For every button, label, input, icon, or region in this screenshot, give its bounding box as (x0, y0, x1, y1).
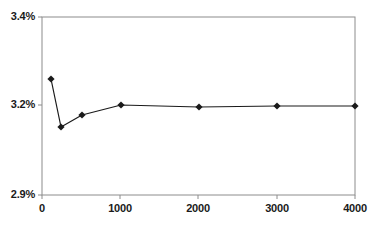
data-point (78, 111, 85, 118)
y-axis-tick-label: 3.4% (0, 10, 35, 22)
x-axis-tick-label: 1000 (80, 202, 160, 214)
series-line (51, 79, 355, 127)
data-point (195, 103, 202, 110)
chart-canvas (0, 0, 377, 226)
x-axis-tick-label: 2000 (158, 202, 238, 214)
x-axis-tick-label: 3000 (237, 202, 317, 214)
x-axis-ticks (42, 195, 355, 199)
data-series (47, 75, 358, 130)
data-point (57, 123, 64, 130)
line-chart: 3.4%3.2%2.9% 01000200030004000 (0, 0, 377, 226)
data-point (47, 75, 54, 82)
y-axis-tick-label: 3.2% (0, 98, 35, 110)
data-point (273, 102, 280, 109)
y-axis-ticks (38, 17, 42, 195)
x-axis-tick-label: 4000 (315, 202, 377, 214)
y-axis-tick-label: 2.9% (0, 188, 35, 200)
data-point (351, 102, 358, 109)
data-point (117, 101, 124, 108)
x-axis-tick-label: 0 (2, 202, 82, 214)
series-markers (47, 75, 358, 130)
